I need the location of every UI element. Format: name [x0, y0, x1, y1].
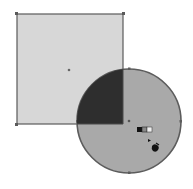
anchor-point[interactable] [128, 68, 131, 71]
anchor-point[interactable] [180, 120, 183, 123]
anchor-point[interactable] [122, 12, 125, 15]
anchor-point[interactable] [128, 172, 131, 175]
center-point [128, 120, 131, 123]
anchor-point[interactable] [15, 123, 18, 126]
artboard [0, 0, 193, 189]
center-point [68, 69, 71, 72]
anchor-point[interactable] [15, 12, 18, 15]
